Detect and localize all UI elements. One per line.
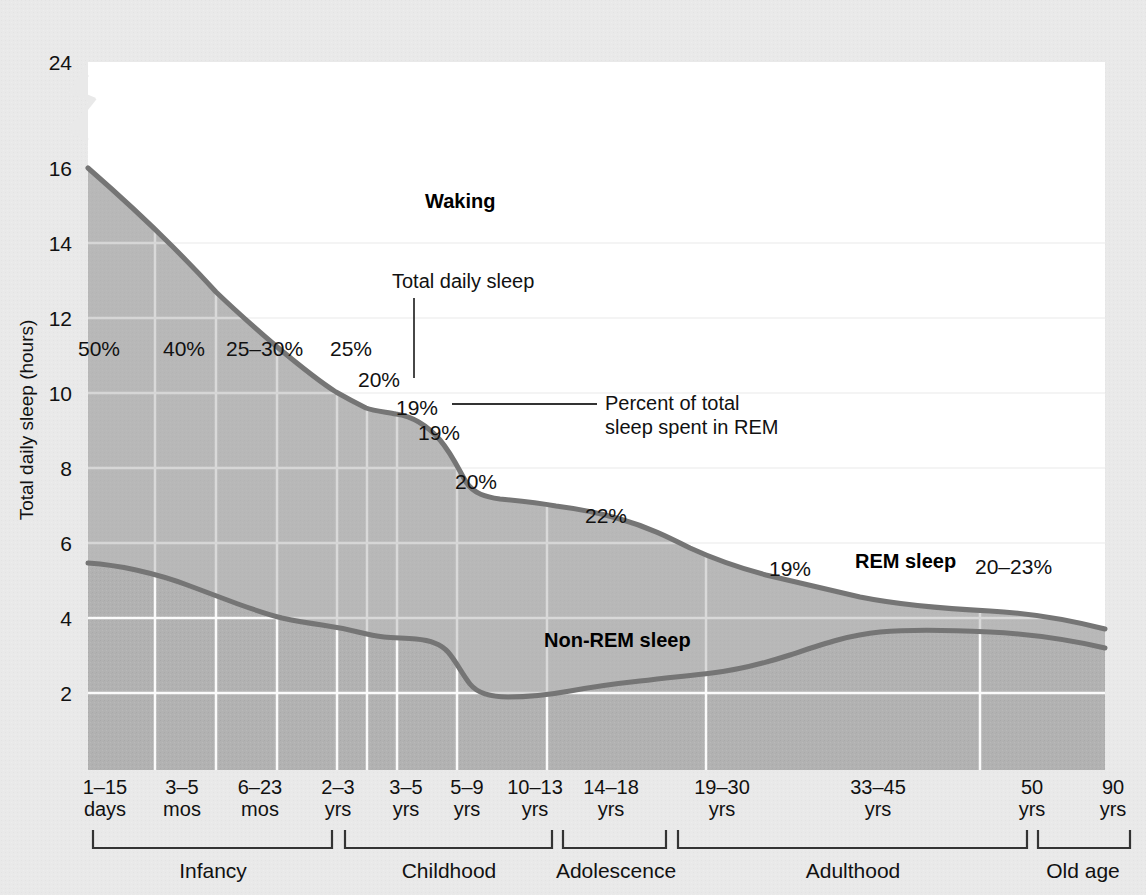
pct-19-c: 19% (769, 557, 811, 580)
pct-25: 25% (330, 337, 372, 360)
pct-40: 40% (163, 337, 205, 360)
xcat-4-line1: 3–5 (389, 776, 422, 798)
y-tick-12: 12 (49, 307, 72, 330)
xcat-7-line2: yrs (598, 798, 625, 820)
pct-20-b: 20% (455, 470, 497, 493)
xcat-6-line1: 10–13 (507, 776, 563, 798)
xcat-11-line1: 90 (1102, 776, 1124, 798)
xcat-5-line2: yrs (454, 798, 481, 820)
pct-50: 50% (78, 337, 120, 360)
y-tick-14: 14 (49, 232, 73, 255)
xcat-1-line1: 3–5 (165, 776, 198, 798)
xcat-10-line2: yrs (1019, 798, 1046, 820)
total-daily-sleep-label: Total daily sleep (392, 270, 534, 292)
xcat-5-line1: 5–9 (450, 776, 483, 798)
xcat-4-line2: yrs (393, 798, 420, 820)
stage-adulthood: Adulthood (806, 859, 901, 882)
rem-sleep-label: REM sleep (855, 550, 956, 572)
chart-svg: 24 16 14 12 10 8 6 4 2 Total daily sleep… (0, 0, 1146, 895)
xcat-3-line1: 2–3 (321, 776, 354, 798)
xcat-0-line1: 1–15 (83, 776, 128, 798)
xcat-1-line2: mos (163, 798, 201, 820)
stage-adolescence: Adolescence (556, 859, 676, 882)
y-axis-title: Total daily sleep (hours) (16, 320, 37, 521)
xcat-7-line1: 14–18 (583, 776, 639, 798)
xcat-8-line1: 19–30 (694, 776, 750, 798)
xcat-8-line2: yrs (709, 798, 736, 820)
stage-childhood: Childhood (402, 859, 497, 882)
sleep-across-lifespan-figure: 24 16 14 12 10 8 6 4 2 Total daily sleep… (0, 0, 1146, 895)
non-rem-sleep-label: Non-REM sleep (544, 629, 691, 651)
y-tick-6: 6 (60, 532, 72, 555)
y-tick-4: 4 (60, 607, 72, 630)
percent-rem-label-line2: sleep spent in REM (605, 416, 778, 438)
xcat-11-line2: yrs (1100, 798, 1127, 820)
pct-20-23: 20–23% (975, 555, 1052, 578)
xcat-10-line1: 50 (1021, 776, 1043, 798)
pct-19-a: 19% (396, 396, 438, 419)
y-tick-2: 2 (60, 682, 72, 705)
y-tick-10: 10 (49, 382, 72, 405)
xcat-9-line2: yrs (865, 798, 892, 820)
waking-label: Waking (425, 190, 495, 212)
xcat-6-line2: yrs (522, 798, 549, 820)
pct-22: 22% (585, 504, 627, 527)
percent-rem-label-line1: Percent of total (605, 392, 740, 414)
stage-old-age: Old age (1046, 859, 1120, 882)
pct-20-a: 20% (358, 368, 400, 391)
pct-19-b: 19% (418, 421, 460, 444)
y-tick-8: 8 (60, 457, 72, 480)
y-tick-24: 24 (49, 51, 73, 74)
xcat-9-line1: 33–45 (850, 776, 906, 798)
xcat-0-line2: days (84, 798, 126, 820)
xcat-2-line1: 6–23 (238, 776, 283, 798)
y-tick-16: 16 (49, 157, 72, 180)
pct-25-30: 25–30% (226, 337, 303, 360)
stage-infancy: Infancy (179, 859, 247, 882)
xcat-3-line2: yrs (325, 798, 352, 820)
xcat-2-line2: mos (241, 798, 279, 820)
